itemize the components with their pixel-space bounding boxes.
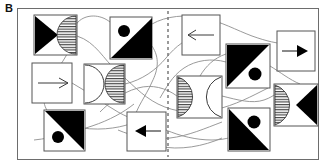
tile-arrow-left-thick[interactable] — [127, 112, 166, 151]
tile-arrow-right[interactable] — [277, 31, 315, 71]
tile-circle-topleft-black-lower-triangle[interactable] — [110, 17, 152, 59]
black-circle-lower-left — [52, 131, 64, 143]
tile-open-halfdisc-hatched-halfdisc[interactable] — [84, 64, 125, 104]
figure-panel: B — [0, 0, 324, 167]
black-circle-lower-right — [249, 68, 262, 81]
tile-black-upper-triangle-circle-lowerleft[interactable] — [44, 110, 85, 151]
tile-hatched-halfdisc-open-halfdisc[interactable] — [177, 76, 222, 118]
diagram-canvas — [0, 0, 324, 167]
tile-black-lower-triangle-circle-topright[interactable] — [228, 108, 270, 151]
tile-hatched-halfdisc-triangle-left[interactable] — [274, 84, 318, 126]
connector-line — [152, 16, 290, 44]
black-circle-top-left — [118, 25, 130, 37]
connector-line — [200, 54, 226, 76]
tile-triangle-right-hatched-halfdisc[interactable] — [34, 15, 77, 55]
tile-black-upper-triangle-circle-lowerright[interactable] — [226, 44, 270, 88]
tile-arrow-left[interactable] — [182, 15, 220, 55]
black-circle-top-right — [248, 116, 261, 129]
tile-arrow-right-thin[interactable] — [32, 63, 72, 103]
